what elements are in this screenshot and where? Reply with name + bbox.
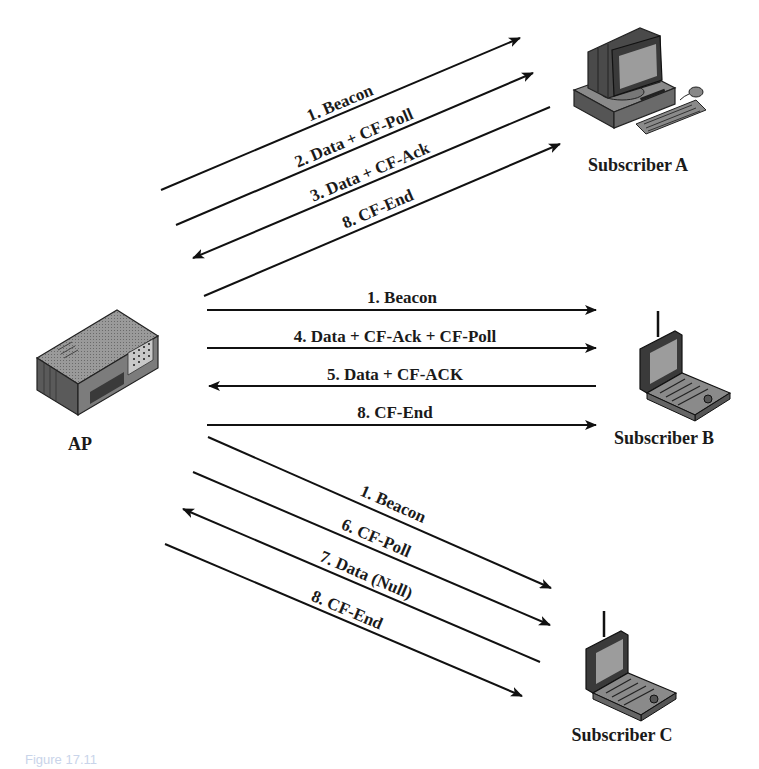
arrow-line	[208, 437, 551, 588]
flow-label: 1. Beacon	[367, 288, 437, 307]
flow-label: 1. Beacon	[357, 481, 429, 527]
desktop-computer-icon	[574, 28, 706, 134]
figure-caption: Figure 17.11	[25, 752, 97, 767]
flow-group-c: 1. Beacon 6. CF-Poll 7. Data (Null) 8. C…	[165, 437, 551, 696]
flow-group-b: 1. Beacon 4. Data + CF-Ack + CF-Poll 5. …	[207, 288, 596, 425]
flow-label: 8. CF-End	[357, 403, 433, 422]
flow-a-1: 1. Beacon	[161, 38, 520, 190]
flow-label: 4. Data + CF-Ack + CF-Poll	[294, 327, 497, 346]
wireless-laptop-icon	[586, 611, 676, 721]
subscriber-b-label: Subscriber B	[614, 428, 714, 448]
arrow-line	[161, 38, 520, 190]
ap-label: AP	[68, 434, 92, 454]
subscriber-c-label: Subscriber C	[571, 725, 672, 745]
flow-b-2: 4. Data + CF-Ack + CF-Poll	[207, 327, 596, 348]
access-point-icon	[37, 310, 158, 415]
wireless-laptop-icon	[640, 311, 730, 421]
subscriber-a-label: Subscriber A	[588, 155, 688, 175]
flow-b-1: 1. Beacon	[207, 288, 596, 310]
flow-c-1: 1. Beacon	[208, 437, 551, 588]
flow-b-3: 5. Data + CF-ACK	[209, 365, 596, 386]
flow-b-4: 8. CF-End	[207, 403, 596, 425]
pcf-diagram: 1. Beacon 2. Data + CF-Poll 3. Data + CF…	[0, 0, 759, 769]
flow-group-a: 1. Beacon 2. Data + CF-Poll 3. Data + CF…	[161, 38, 560, 296]
flow-label: 5. Data + CF-ACK	[327, 365, 464, 384]
